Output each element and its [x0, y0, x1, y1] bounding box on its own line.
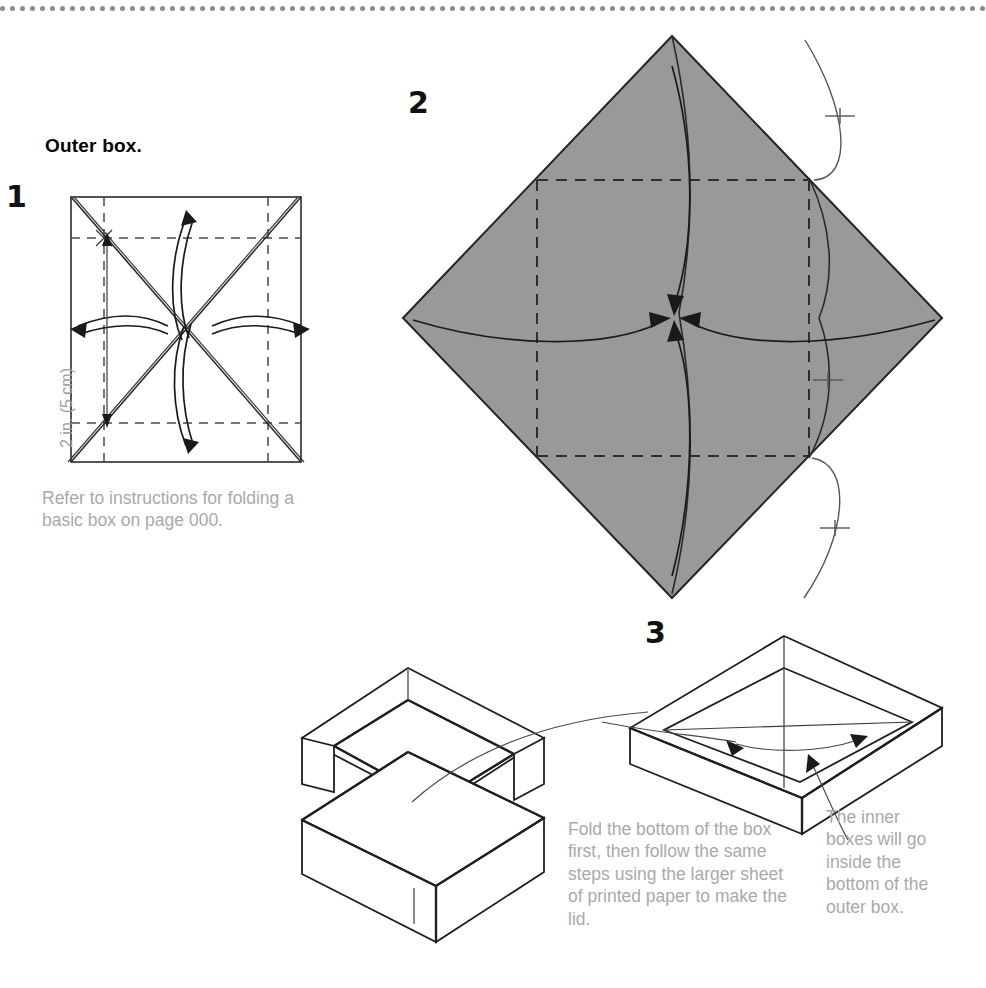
page-title: Outer box. — [45, 135, 142, 157]
step-1-diagram — [60, 188, 320, 478]
measurement-label: 2 in. (5 cm) — [58, 368, 76, 448]
step-3-connector-leader — [400, 690, 660, 810]
step-number-1: 1 — [6, 182, 27, 212]
instruction-page: Outer box. 1 — [0, 0, 986, 988]
step-3-caption-right: The inner boxes will go inside the botto… — [826, 806, 944, 918]
top-dotted-divider — [0, 6, 986, 11]
step-2-diagram — [395, 28, 950, 598]
step-1-caption: Refer to instructions for folding a basi… — [42, 487, 314, 532]
step-3-caption-left: Fold the bottom of the box first, then f… — [568, 818, 790, 930]
